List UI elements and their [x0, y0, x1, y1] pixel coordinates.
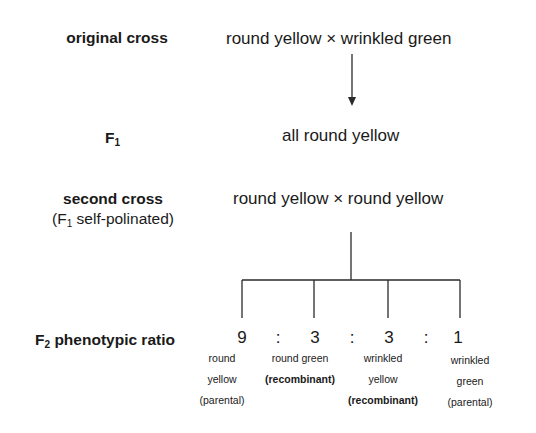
phenotype-type: (parental): [448, 392, 493, 413]
ratio-count-2: 3: [310, 328, 319, 348]
phenotype-round-green: round green (recombinant): [265, 348, 335, 390]
down-arrow-head-icon: [348, 97, 356, 106]
phenotype-wrinkled-yellow: wrinkled yellow (recombinant): [348, 348, 418, 411]
phenotype-line: round green: [265, 348, 335, 369]
ratio-count-1: 9: [237, 328, 246, 348]
phenotype-line: green: [448, 371, 493, 392]
phenotype-line: wrinkled: [348, 348, 418, 369]
cross-symbol: ×: [333, 189, 343, 208]
ratio-separator: :: [424, 328, 429, 348]
ratio-separator: :: [276, 328, 281, 348]
second-cross-parents: round yellow × round yellow: [233, 189, 443, 209]
ratio-count-4: 1: [453, 328, 462, 348]
phenotype-round-yellow: round yellow (parental): [200, 348, 245, 411]
phenotype-type: (recombinant): [265, 369, 335, 390]
phenotype-type: (parental): [200, 390, 245, 411]
phenotype-line: yellow: [200, 369, 245, 390]
phenotype-wrinkled-green: wrinkled green (parental): [448, 350, 493, 413]
phenotype-line: wrinkled: [448, 350, 493, 371]
phenotype-type: (recombinant): [348, 390, 418, 411]
phenotype-line: round: [200, 348, 245, 369]
parent-a: round yellow: [233, 189, 328, 208]
parent-b: round yellow: [348, 189, 443, 208]
ratio-separator: :: [350, 328, 355, 348]
phenotype-line: yellow: [348, 369, 418, 390]
ratio-count-3: 3: [384, 328, 393, 348]
f1-result: all round yellow: [282, 126, 399, 146]
